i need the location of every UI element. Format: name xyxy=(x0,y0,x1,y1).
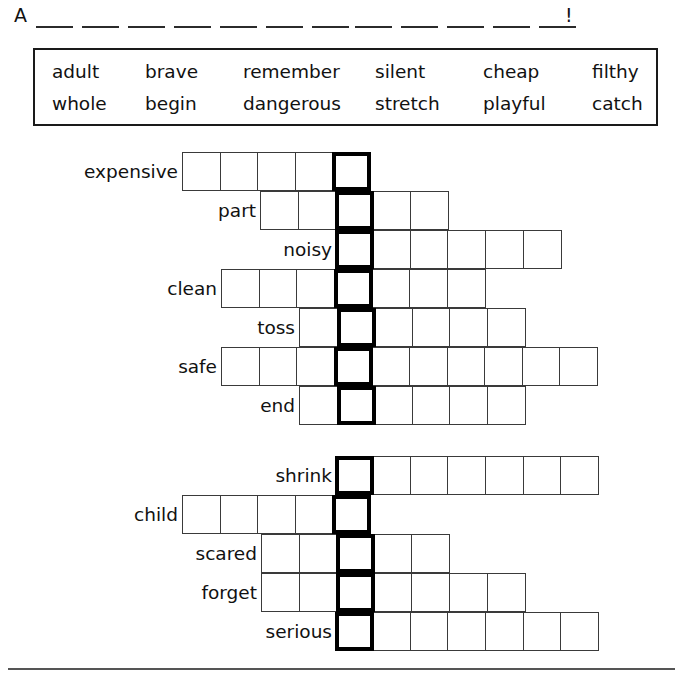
answer-blank[interactable] xyxy=(312,26,349,28)
crossword-cell[interactable] xyxy=(485,456,524,495)
crossword-cell[interactable] xyxy=(372,456,411,495)
word-bank-word[interactable]: cheap xyxy=(483,61,539,83)
crossword-cell[interactable] xyxy=(374,573,413,612)
word-bank-word[interactable]: catch xyxy=(592,93,643,115)
word-bank-word[interactable]: brave xyxy=(145,61,198,83)
word-bank-word[interactable]: filthy xyxy=(592,61,639,83)
crossword-cell[interactable] xyxy=(484,347,523,386)
crossword-cell[interactable] xyxy=(410,230,449,269)
crossword-cell[interactable] xyxy=(220,152,259,191)
crossword-cell[interactable] xyxy=(411,534,450,573)
crossword-cell[interactable] xyxy=(410,191,449,230)
crossword-key-cell[interactable] xyxy=(337,308,376,347)
crossword-cell[interactable] xyxy=(299,386,338,425)
word-bank-word[interactable]: remember xyxy=(243,61,340,83)
answer-blank-group-2[interactable] xyxy=(355,26,576,28)
answer-blank[interactable] xyxy=(266,26,303,28)
crossword-cell[interactable] xyxy=(449,308,488,347)
crossword-cell[interactable] xyxy=(523,230,562,269)
crossword-cell[interactable] xyxy=(373,191,412,230)
crossword-cell[interactable] xyxy=(411,573,450,612)
answer-blank-group-1[interactable] xyxy=(36,26,349,28)
crossword-cell[interactable] xyxy=(523,456,562,495)
crossword-cell[interactable] xyxy=(447,456,486,495)
answer-blank[interactable] xyxy=(539,26,576,28)
crossword-cell[interactable] xyxy=(409,347,448,386)
crossword-key-cell[interactable] xyxy=(335,612,374,651)
crossword-cell[interactable] xyxy=(296,347,335,386)
crossword-key-cell[interactable] xyxy=(332,152,371,191)
crossword-cell[interactable] xyxy=(409,269,448,308)
crossword-cell[interactable] xyxy=(299,573,338,612)
crossword-cell[interactable] xyxy=(261,534,300,573)
crossword-cell[interactable] xyxy=(295,495,334,534)
crossword-cell[interactable] xyxy=(296,269,335,308)
crossword-key-cell[interactable] xyxy=(336,573,375,612)
crossword-cell[interactable] xyxy=(523,612,562,651)
crossword-cell[interactable] xyxy=(374,534,413,573)
word-bank-word[interactable]: dangerous xyxy=(243,93,341,115)
crossword-cell[interactable] xyxy=(372,612,411,651)
crossword-cell[interactable] xyxy=(257,495,296,534)
crossword-cell[interactable] xyxy=(221,269,260,308)
crossword-cell[interactable] xyxy=(299,534,338,573)
crossword-cell[interactable] xyxy=(485,612,524,651)
crossword-cell[interactable] xyxy=(447,347,486,386)
crossword-cell[interactable] xyxy=(410,612,449,651)
crossword-cell[interactable] xyxy=(372,230,411,269)
crossword-cell[interactable] xyxy=(447,230,486,269)
crossword-cell[interactable] xyxy=(257,152,296,191)
crossword-key-cell[interactable] xyxy=(336,534,375,573)
crossword-cell[interactable] xyxy=(487,386,526,425)
crossword-cell[interactable] xyxy=(447,269,486,308)
crossword-cell[interactable] xyxy=(221,347,260,386)
crossword-key-cell[interactable] xyxy=(337,386,376,425)
crossword-cell[interactable] xyxy=(182,495,221,534)
answer-blank[interactable] xyxy=(220,26,257,28)
crossword-cell[interactable] xyxy=(260,191,299,230)
crossword-cell[interactable] xyxy=(182,152,221,191)
crossword-cell[interactable] xyxy=(485,230,524,269)
crossword-cell[interactable] xyxy=(259,347,298,386)
crossword-cell[interactable] xyxy=(298,191,337,230)
crossword-cell[interactable] xyxy=(410,456,449,495)
word-bank-word[interactable]: whole xyxy=(52,93,107,115)
answer-blank[interactable] xyxy=(36,26,73,28)
crossword-cell[interactable] xyxy=(412,308,451,347)
answer-blank[interactable] xyxy=(493,26,530,28)
crossword-key-cell[interactable] xyxy=(335,456,374,495)
crossword-cell[interactable] xyxy=(487,308,526,347)
crossword-cell[interactable] xyxy=(295,152,334,191)
crossword-cell[interactable] xyxy=(487,573,526,612)
crossword-cell[interactable] xyxy=(220,495,259,534)
word-bank-word[interactable]: adult xyxy=(52,61,99,83)
crossword-cell[interactable] xyxy=(560,612,599,651)
crossword-cell[interactable] xyxy=(371,347,410,386)
word-bank-word[interactable]: begin xyxy=(145,93,197,115)
crossword-cell[interactable] xyxy=(374,386,413,425)
crossword-cell[interactable] xyxy=(447,612,486,651)
crossword-cell[interactable] xyxy=(374,308,413,347)
answer-blank[interactable] xyxy=(355,26,392,28)
answer-blank[interactable] xyxy=(128,26,165,28)
answer-blank[interactable] xyxy=(174,26,211,28)
answer-blank[interactable] xyxy=(447,26,484,28)
word-bank-word[interactable]: stretch xyxy=(375,93,440,115)
crossword-key-cell[interactable] xyxy=(332,495,371,534)
crossword-cell[interactable] xyxy=(559,347,598,386)
crossword-key-cell[interactable] xyxy=(335,191,374,230)
crossword-cell[interactable] xyxy=(449,573,488,612)
crossword-key-cell[interactable] xyxy=(334,269,373,308)
crossword-cell[interactable] xyxy=(299,308,338,347)
crossword-cell[interactable] xyxy=(259,269,298,308)
crossword-key-cell[interactable] xyxy=(334,347,373,386)
answer-blank[interactable] xyxy=(82,26,119,28)
crossword-cell[interactable] xyxy=(371,269,410,308)
crossword-cell[interactable] xyxy=(412,386,451,425)
word-bank-word[interactable]: playful xyxy=(483,93,546,115)
crossword-cell[interactable] xyxy=(449,386,488,425)
crossword-cell[interactable] xyxy=(261,573,300,612)
crossword-cell[interactable] xyxy=(560,456,599,495)
crossword-cell[interactable] xyxy=(522,347,561,386)
word-bank-word[interactable]: silent xyxy=(375,61,425,83)
